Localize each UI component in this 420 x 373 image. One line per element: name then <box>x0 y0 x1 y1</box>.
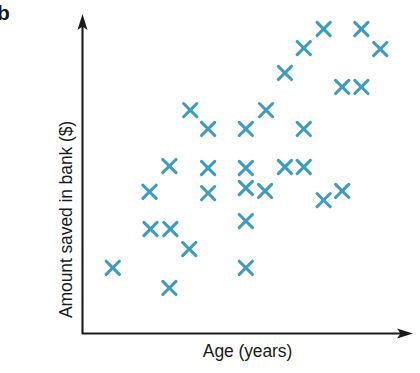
data-point-group <box>106 22 387 294</box>
data-point-marker <box>355 22 368 35</box>
data-point-marker <box>184 104 197 117</box>
data-point-marker <box>259 104 272 117</box>
data-point-marker <box>202 122 215 135</box>
data-point-marker <box>297 160 310 173</box>
axes <box>78 14 414 339</box>
data-point-marker <box>143 185 156 198</box>
data-point-marker <box>278 160 291 173</box>
data-point-marker <box>239 215 252 228</box>
data-point-marker <box>163 281 176 294</box>
data-point-marker <box>183 242 196 255</box>
data-point-marker <box>202 161 215 174</box>
data-point-marker <box>355 80 368 93</box>
data-point-marker <box>202 187 215 200</box>
data-point-marker <box>239 122 252 135</box>
data-point-marker <box>374 42 387 55</box>
data-point-marker <box>278 66 291 79</box>
data-point-marker <box>317 194 330 207</box>
data-point-marker <box>163 159 176 172</box>
data-point-marker <box>164 222 177 235</box>
y-axis-label: Amount saved in bank ($) <box>56 18 77 318</box>
data-point-marker <box>297 42 310 55</box>
data-point-marker <box>317 22 330 35</box>
data-point-marker <box>144 222 157 235</box>
data-point-marker <box>106 261 119 274</box>
data-point-marker <box>239 261 252 274</box>
data-point-marker <box>239 161 252 174</box>
data-point-marker <box>336 80 349 93</box>
scatter-plot-figure: b Amount saved in bank ($) Age (years) <box>0 0 420 373</box>
x-axis-label: Age (years) <box>82 341 413 362</box>
data-point-marker <box>258 184 271 197</box>
data-point-marker <box>297 122 310 135</box>
data-point-marker <box>336 184 349 197</box>
data-point-marker <box>239 181 252 194</box>
